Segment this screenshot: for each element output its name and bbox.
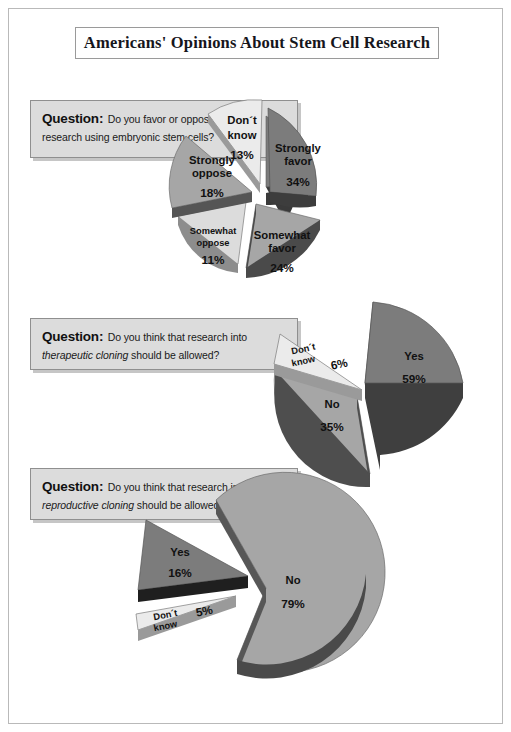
pie-chart-1: Strongly favor 34% Somewhat favor 24% So…: [120, 92, 380, 292]
slice-label-yes: Yes: [170, 546, 189, 558]
slice-value-somewhat-oppose: 11%: [202, 253, 225, 267]
slice-value-dont-know: 6%: [329, 355, 349, 372]
slice-value-no: 79%: [281, 597, 305, 611]
slice-value-strongly-oppose: 18%: [200, 186, 224, 200]
question-label-3: Question:: [42, 479, 103, 494]
pie-chart-1-svg: Strongly favor 34% Somewhat favor 24% So…: [120, 92, 380, 292]
slice-label-no: No: [324, 398, 339, 410]
pie-chart-3: No 79% Yes 16% Don´t know 5%: [128, 478, 378, 693]
slice-yes: Yes 59%: [365, 302, 463, 470]
slice-somewhat-favor: Somewhat favor 24%: [246, 204, 320, 278]
slice-value-strongly-favor: 34%: [286, 175, 310, 189]
question-label-1: Question:: [42, 111, 103, 126]
pie-chart-2-svg: Yes 59% No 35% Don´t know 6%: [262, 288, 492, 498]
slice-value-no: 35%: [320, 420, 344, 434]
slice-value-somewhat-favor: 24%: [270, 261, 294, 275]
pie-chart-3-svg: No 79% Yes 16% Don´t know 5%: [128, 478, 378, 693]
slice-label-somewhat-oppose-line2: oppose: [196, 238, 229, 248]
slice-label-strongly-favor-line2: favor: [284, 155, 312, 167]
question-label-2: Question:: [42, 329, 103, 344]
slice-dont-know: Don´t know 5%: [136, 596, 236, 641]
page-title: Americans' Opinions About Stem Cell Rese…: [84, 33, 430, 53]
slice-label-somewhat-favor-line2: favor: [268, 242, 296, 254]
slice-label-somewhat-favor-line1: Somewhat: [254, 229, 311, 241]
slice-value-dont-know: 5%: [195, 602, 215, 619]
slice-label-strongly-oppose-line2: oppose: [192, 167, 232, 179]
slice-label-somewhat-oppose-line1: Somewhat: [190, 226, 237, 236]
slice-label-strongly-favor-line1: Strongly: [275, 142, 322, 154]
slice-label-dont-know-line1: Don´t: [227, 114, 257, 126]
slice-value-dont-know: 13%: [230, 148, 254, 162]
slice-label-dont-know-line2: know: [228, 129, 257, 141]
slice-label-yes: Yes: [404, 350, 423, 362]
slice-label-strongly-oppose-line1: Strongly: [189, 154, 236, 166]
slice-value-yes: 16%: [168, 566, 192, 580]
question-box-2: Question: Do you think that research int…: [30, 318, 298, 370]
title-box: Americans' Opinions About Stem Cell Rese…: [75, 27, 439, 59]
slice-strongly-favor: Strongly favor 34%: [266, 108, 322, 222]
slice-value-yes: 59%: [402, 372, 426, 386]
slice-label-no: No: [285, 574, 300, 586]
pie-chart-2: Yes 59% No 35% Don´t know 6%: [262, 288, 492, 498]
infographic-page: Americans' Opinions About Stem Cell Rese…: [0, 0, 511, 732]
